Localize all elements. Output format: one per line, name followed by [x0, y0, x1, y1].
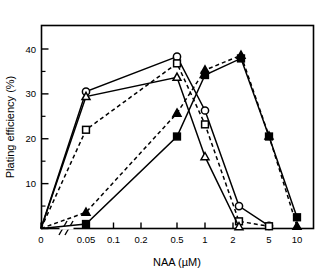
y-tick-label: 20 [25, 133, 36, 144]
marker-open-circle [201, 107, 208, 114]
x-tick-label: 2 [230, 234, 235, 245]
marker-filled-square [83, 221, 90, 228]
x-tick-label: 10 [292, 234, 303, 245]
x-tick-label: 5 [266, 234, 271, 245]
marker-filled-square [294, 214, 301, 221]
x-tick-label: 1 [202, 234, 207, 245]
marker-open-square [266, 223, 273, 230]
marker-open-square [174, 60, 181, 67]
marker-filled-square [238, 55, 245, 62]
x-tick-label: 0.05 [77, 234, 96, 245]
y-tick-label: 30 [25, 88, 36, 99]
y-tick-label: 10 [25, 178, 36, 189]
x-axis-title: NAA (µM) [153, 256, 201, 268]
plating-efficiency-chart: 00.050.10.20.512510 10203040 NAA (µM) Pl… [0, 0, 330, 275]
y-tick-label: 40 [25, 44, 36, 55]
marker-filled-square [266, 133, 273, 140]
marker-open-square [202, 121, 209, 128]
marker-open-square [83, 126, 90, 133]
marker-open-circle [173, 53, 180, 60]
y-axis-title: Plating efficiency (%) [4, 76, 16, 179]
marker-filled-square [202, 72, 209, 79]
x-tick-label: 0.2 [134, 234, 147, 245]
x-tick-label: 0.5 [170, 234, 183, 245]
marker-open-circle [235, 202, 242, 209]
chart-figure: 00.050.10.20.512510 10203040 NAA (µM) Pl… [0, 0, 330, 275]
marker-filled-square [174, 133, 181, 140]
x-tick-label: 0 [38, 234, 43, 245]
x-tick-label: 0.1 [107, 234, 120, 245]
